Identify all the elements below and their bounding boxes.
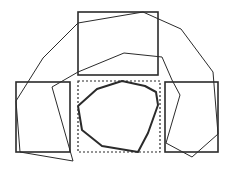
diagram-canvas <box>0 0 229 170</box>
background <box>0 0 229 170</box>
geometric-diagram <box>0 0 229 170</box>
